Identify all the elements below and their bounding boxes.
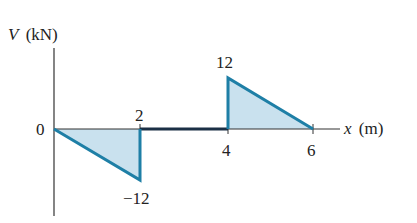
- origin-label: 0: [36, 120, 45, 139]
- min-value-label: −12: [123, 189, 150, 208]
- y-axis-label: V (kN): [8, 25, 58, 44]
- x-tick-label-2: 2: [135, 106, 144, 125]
- max-value-label: 12: [216, 53, 233, 72]
- x-tick-label-4: 4: [222, 141, 231, 160]
- x-tick-label-6: 6: [307, 141, 316, 160]
- x-axis-label: x (m): [343, 119, 383, 138]
- shear-force-diagram: V (kN) x (m) 0 2 4 6 −12 12: [0, 0, 417, 223]
